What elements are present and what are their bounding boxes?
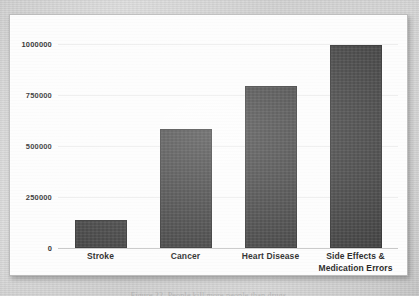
chart-figure-panel: 02500005000007500001000000 StrokeCancerH… xyxy=(9,14,408,276)
x-axis-category-labels: StrokeCancerHeart DiseaseSide Effects &M… xyxy=(58,251,398,276)
y-tick-label-250000: 250000 xyxy=(26,193,52,202)
x-label-cancer: Cancer xyxy=(143,251,228,263)
bar-side-effects-medication-errors xyxy=(330,45,382,248)
x-label-side-effects-medication-errors: Side Effects &Medication Errors xyxy=(313,251,398,274)
bar-cancer xyxy=(160,129,212,248)
bars-group xyxy=(58,44,398,248)
gridline-0 xyxy=(58,248,398,249)
x-label-line-1: Side Effects & xyxy=(313,251,398,263)
bar-stroke xyxy=(75,220,127,248)
x-label-line-1: Heart Disease xyxy=(228,251,313,263)
x-label-heart-disease: Heart Disease xyxy=(228,251,313,263)
y-tick-label-750000: 750000 xyxy=(26,91,52,100)
y-tick-label-500000: 500000 xyxy=(26,142,52,151)
y-tick-label-1000000: 1000000 xyxy=(21,40,52,49)
x-label-stroke: Stroke xyxy=(58,251,143,263)
x-label-line-2: Medication Errors xyxy=(313,263,398,275)
scanned-page: 02500005000007500001000000 StrokeCancerH… xyxy=(0,0,419,296)
y-tick-label-0: 0 xyxy=(48,244,52,253)
plot-area: 02500005000007500001000000 xyxy=(58,44,398,248)
x-label-line-1: Stroke xyxy=(58,251,143,263)
figure-caption: Figure 22. People kill more people than … xyxy=(0,291,419,296)
bar-heart-disease xyxy=(245,86,297,248)
x-label-line-1: Cancer xyxy=(143,251,228,263)
